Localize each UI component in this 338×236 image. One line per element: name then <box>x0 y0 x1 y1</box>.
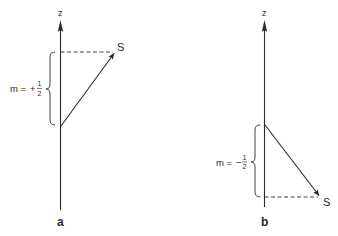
svg-text:−: − <box>236 157 242 168</box>
spin-vector-a <box>61 54 114 127</box>
panel-a: z S m = + 1 2 a <box>10 8 124 229</box>
brace-icon <box>251 125 260 197</box>
svg-text:m =: m = <box>10 83 27 94</box>
svg-text:m =: m = <box>216 157 233 168</box>
panel-label-a: a <box>57 215 64 229</box>
svg-text:+: + <box>30 83 36 94</box>
spin-diagram: z S m = + 1 2 a z S <box>0 0 338 236</box>
svg-text:2: 2 <box>38 90 42 97</box>
svg-text:2: 2 <box>243 163 247 170</box>
z-axis-a <box>58 20 63 210</box>
vector-label-b: S <box>323 196 330 208</box>
m-value-label-b: m = − 1 2 <box>216 154 247 171</box>
spin-vector-b <box>265 125 319 196</box>
svg-text:1: 1 <box>243 154 247 161</box>
z-axis-b <box>262 20 267 207</box>
vector-label-a: S <box>117 41 124 53</box>
axis-label-a: z <box>58 8 63 18</box>
axis-label-b: z <box>262 8 267 18</box>
m-value-label-a: m = + 1 2 <box>10 80 42 97</box>
brace-icon <box>46 52 55 125</box>
panel-b: z S m = − 1 2 b <box>216 8 330 229</box>
svg-text:1: 1 <box>38 80 42 87</box>
panel-label-b: b <box>261 215 268 229</box>
